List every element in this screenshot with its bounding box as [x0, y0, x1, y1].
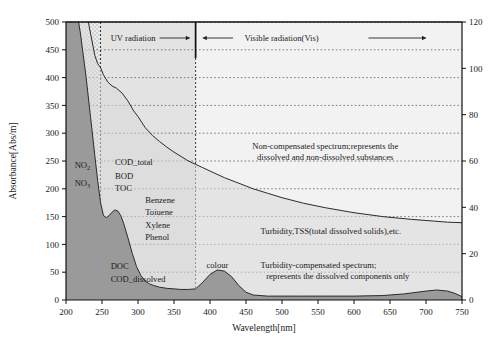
ticklabel-left-50: 50	[50, 267, 60, 277]
ticklabel-x-200: 200	[59, 307, 73, 317]
compensated-note-2: represents the dissolved components only	[266, 271, 410, 281]
substance-doc: DOC	[111, 261, 129, 271]
ticklabel-x-350: 350	[167, 307, 181, 317]
ticklabel-x-500: 500	[275, 307, 289, 317]
ticklabel-x-600: 600	[347, 307, 361, 317]
ticklabel-right-60: 60	[469, 156, 479, 166]
ticklabel-left-450: 450	[46, 45, 60, 55]
substance-cod-dissolved: COD_dissolved	[111, 274, 167, 284]
substance-phenol: Phenol	[145, 232, 169, 242]
y-axis-title: Absorbance[Abs/m]	[8, 122, 18, 199]
ticklabel-x-250: 250	[95, 307, 109, 317]
non-compensated-note-2: dissolved and non-dissolved substances	[257, 152, 394, 162]
ticklabel-left-150: 150	[46, 212, 60, 222]
substance-bod: BOD	[115, 171, 133, 181]
ticklabel-left-100: 100	[46, 240, 60, 250]
ticklabel-x-300: 300	[131, 307, 145, 317]
visible-radiation-label: Visible radiation(Vis)	[245, 33, 319, 43]
compensated-note-1: Turbidity-compensated spectrum;	[260, 260, 376, 270]
ticklabel-left-350: 350	[46, 101, 60, 111]
ticklabel-left-400: 400	[46, 73, 60, 83]
x-axis-title: Wavelength[nm]	[232, 323, 296, 333]
non-compensated-note-1: Non-compensated spectrum;represents the	[252, 141, 398, 151]
substance-benzene: Benzene	[145, 195, 175, 205]
ticklabel-left-250: 250	[46, 156, 60, 166]
substance-xylene: Xylene	[145, 220, 170, 230]
ticklabel-right-40: 40	[469, 203, 479, 213]
ticklabel-left-300: 300	[46, 128, 60, 138]
ticklabel-x-750: 750	[455, 307, 469, 317]
ticklabel-right-20: 20	[469, 249, 479, 259]
ticklabel-x-700: 700	[419, 307, 433, 317]
substance-toc: TOC	[115, 183, 132, 193]
colour-label: colour	[206, 260, 228, 270]
ticklabel-right-80: 80	[469, 110, 479, 120]
ticklabel-x-450: 450	[239, 307, 253, 317]
uv-radiation-label: UV radiation	[111, 33, 157, 43]
ticklabel-x-400: 400	[203, 307, 217, 317]
ticklabel-right-100: 100	[469, 64, 483, 74]
chart-figure: 0501001502002503003504004505000204060801…	[0, 0, 495, 345]
ticklabel-left-500: 500	[46, 17, 60, 27]
substance-toluene: Toiuene	[145, 207, 173, 217]
ticklabel-left-0: 0	[55, 295, 60, 305]
uv-vis-absorbance-chart: 0501001502002503003504004505000204060801…	[0, 0, 495, 345]
ticklabel-right-120: 120	[469, 17, 483, 27]
ticklabel-left-200: 200	[46, 184, 60, 194]
ticklabel-right-0: 0	[469, 295, 474, 305]
substance-cod-total: COD_total	[115, 157, 153, 167]
ticklabel-x-650: 650	[383, 307, 397, 317]
ticklabel-x-550: 550	[311, 307, 325, 317]
turbidity-note: Turbidity,TSS(total dissolved solids),et…	[260, 226, 401, 236]
